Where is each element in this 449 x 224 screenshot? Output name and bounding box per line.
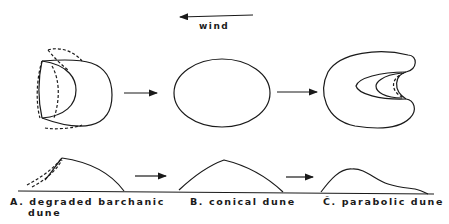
stage-c-label: C̆. parabolic dune: [323, 196, 444, 207]
ground-line: [18, 191, 434, 194]
wind-label: wind: [199, 21, 229, 31]
profile-a-degraded-barchan: [27, 158, 124, 191]
plan-view-b-conical: [174, 59, 270, 127]
stage-b-label: B. conical dune: [190, 196, 296, 207]
dune-evolution-diagram: [0, 0, 449, 224]
plan-view-a-degraded-barchan: [37, 49, 112, 129]
stage-a-label: A. degraded barchanic: [10, 196, 165, 207]
plan-view-c-parabolic: [324, 52, 416, 128]
stage-a-label-line2: dune: [28, 207, 61, 218]
profile-b-conical: [179, 160, 283, 192]
profile-c-parabolic: [321, 169, 428, 194]
wind-arrow: [180, 15, 253, 17]
